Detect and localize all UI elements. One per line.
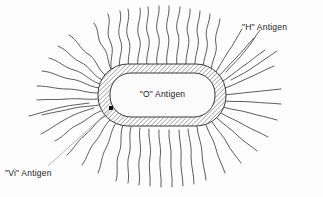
- h-antigen-label: "H" Antigen: [242, 22, 287, 32]
- o-antigen-label: "O" Antigen: [140, 89, 186, 99]
- antigen-diagram-figure: "H" Antigen "O" Antigen "Vi" Antigen: [0, 0, 323, 197]
- vi-antigen-marker-dot: [109, 106, 113, 110]
- vi-antigen-label: "Vi" Antigen: [5, 168, 52, 178]
- o-antigen-label-wrap: "O" Antigen: [110, 83, 215, 101]
- vi-antigen-leader-line: [48, 109, 111, 166]
